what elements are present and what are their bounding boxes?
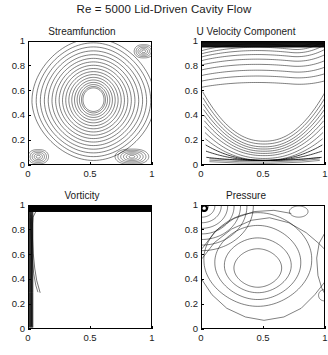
- ytick-label: 0.4: [175, 111, 198, 121]
- xtick-label: 1: [322, 333, 327, 343]
- ytick-label: 0.4: [2, 111, 25, 121]
- xtick-mark: [263, 162, 264, 165]
- ytick-label: 1: [175, 200, 198, 210]
- ytick-mark: [28, 304, 31, 305]
- ytick-mark: [28, 254, 31, 255]
- axes-u-velocity: [201, 41, 325, 165]
- panel-streamfunction: Streamfunction 00.20.40.60.8100.51: [0, 26, 164, 191]
- ytick-label: 0: [175, 160, 198, 170]
- ytick-mark: [201, 304, 204, 305]
- ytick-label: 0.2: [175, 135, 198, 145]
- xtick-mark: [263, 326, 264, 329]
- ytick-label: 0.8: [175, 225, 198, 235]
- figure-root: Re = 5000 Lid-Driven Cavity Flow Streamf…: [0, 0, 328, 355]
- ytick-label: 0.2: [2, 299, 25, 309]
- xtick-label: 0.5: [256, 169, 269, 179]
- ytick-label: 1: [2, 200, 25, 210]
- ytick-label: 0: [2, 324, 25, 334]
- panel-vorticity: Vorticity 00.20.40.60.8100.51: [0, 190, 164, 355]
- ytick-mark: [201, 279, 204, 280]
- xtick-mark: [325, 162, 326, 165]
- xtick-mark: [201, 162, 202, 165]
- ytick-mark: [201, 254, 204, 255]
- xtick-label: 0: [25, 169, 30, 179]
- xtick-label: 0: [198, 169, 203, 179]
- ytick-label: 1: [2, 36, 25, 46]
- ytick-label: 0.2: [175, 299, 198, 309]
- ytick-label: 0.6: [2, 250, 25, 260]
- axes-pressure: [201, 205, 325, 329]
- ytick-mark: [201, 90, 204, 91]
- ytick-label: 0.8: [2, 61, 25, 71]
- ytick-mark: [28, 205, 31, 206]
- xtick-label: 0: [198, 333, 203, 343]
- ytick-label: 0: [2, 160, 25, 170]
- ytick-mark: [201, 41, 204, 42]
- xtick-label: 0.5: [83, 169, 96, 179]
- ytick-label: 0.6: [2, 86, 25, 96]
- ytick-mark: [201, 115, 204, 116]
- ytick-mark: [201, 140, 204, 141]
- ytick-label: 0: [175, 324, 198, 334]
- axes-streamfunction: [28, 41, 152, 165]
- ytick-mark: [28, 41, 31, 42]
- ytick-mark: [201, 65, 204, 66]
- ytick-label: 0.2: [2, 135, 25, 145]
- ytick-label: 0.4: [2, 275, 25, 285]
- xtick-label: 0: [25, 333, 30, 343]
- axes-vorticity: [28, 205, 152, 329]
- ytick-mark: [28, 90, 31, 91]
- ytick-mark: [28, 279, 31, 280]
- xtick-mark: [90, 162, 91, 165]
- ytick-mark: [201, 205, 204, 206]
- figure-title: Re = 5000 Lid-Driven Cavity Flow: [0, 3, 328, 15]
- panel-u-velocity: U Velocity Component 00.20.40.60.8100.51: [164, 26, 328, 191]
- xtick-mark: [152, 326, 153, 329]
- xtick-mark: [90, 326, 91, 329]
- xtick-mark: [325, 326, 326, 329]
- ytick-label: 0.6: [175, 250, 198, 260]
- xtick-label: 0.5: [256, 333, 269, 343]
- ytick-mark: [28, 140, 31, 141]
- ytick-label: 0.8: [2, 225, 25, 235]
- xtick-mark: [28, 326, 29, 329]
- xtick-mark: [201, 326, 202, 329]
- xtick-label: 1: [149, 333, 154, 343]
- ytick-mark: [28, 229, 31, 230]
- ytick-mark: [201, 229, 204, 230]
- ytick-label: 1: [175, 36, 198, 46]
- xtick-mark: [152, 162, 153, 165]
- xtick-label: 1: [322, 169, 327, 179]
- ytick-mark: [28, 65, 31, 66]
- xtick-mark: [28, 162, 29, 165]
- xtick-label: 1: [149, 169, 154, 179]
- ytick-mark: [28, 115, 31, 116]
- ytick-label: 0.6: [175, 86, 198, 96]
- panel-pressure: Pressure 00.20.40.60.8100.51: [164, 190, 328, 355]
- ytick-label: 0.4: [175, 275, 198, 285]
- xtick-label: 0.5: [83, 333, 96, 343]
- ytick-label: 0.8: [175, 61, 198, 71]
